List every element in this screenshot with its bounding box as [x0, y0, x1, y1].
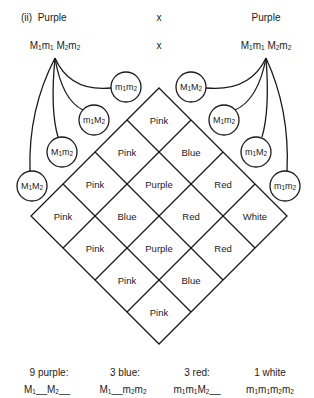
punnett-diagram-lines — [0, 0, 314, 398]
part-label: (ii) — [21, 12, 32, 23]
summary-ratio-purple: 9 purple: — [30, 367, 69, 378]
grid-cell: Pink — [86, 179, 104, 190]
grid-cell: Pink — [54, 211, 72, 222]
gamete-right-m1m2: m1m2 — [274, 181, 296, 191]
grid-cell: Blue — [117, 211, 136, 222]
grid-cell: Purple — [145, 179, 172, 190]
parent1-phenotype: Purple — [38, 12, 67, 23]
summary-ratio-red: 3 red: — [184, 367, 210, 378]
summary-genotype-white: m1m1m2m2 — [246, 384, 294, 395]
grid-cell: Pink — [150, 115, 168, 126]
summary-genotype-blue: M1__m2m2 — [99, 384, 146, 395]
summary-genotype-purple: M1__M2__ — [24, 384, 70, 395]
cross-label: (ii) Purple — [21, 12, 67, 23]
parent2-phenotype: Purple — [252, 12, 281, 23]
grid-cell: Pink — [118, 147, 136, 158]
parent2-genotype: M1m1 M2m2 — [241, 40, 292, 51]
gamete-left-m1M2: m1M2 — [83, 115, 105, 125]
cross-symbol-genotype: x — [157, 40, 162, 51]
grid-cell: Pink — [150, 307, 168, 318]
grid-cell: White — [243, 211, 267, 222]
gamete-right-m1M2: m1M2 — [245, 147, 267, 157]
grid-cell: Red — [214, 179, 231, 190]
grid-cell: Pink — [118, 275, 136, 286]
gamete-left-m1m2: m1m2 — [115, 82, 137, 92]
gamete-right-M1M2: M1M2 — [180, 82, 202, 92]
parent1-genotype: M1m1 M2m2 — [30, 40, 81, 51]
summary-ratio-white: 1 white — [254, 367, 286, 378]
grid-cell: Purple — [145, 243, 172, 254]
grid-cell: Pink — [86, 243, 104, 254]
summary-genotype-red: m1m1M2__ — [173, 384, 220, 395]
summary-ratio-blue: 3 blue: — [110, 367, 140, 378]
grid-cell: Blue — [181, 275, 200, 286]
grid-cell: Red — [182, 211, 199, 222]
grid-cell: Red — [214, 243, 231, 254]
gamete-left-M1m2: M1m2 — [51, 147, 73, 157]
gamete-left-M1M2: M1M2 — [21, 181, 43, 191]
grid-cell: Blue — [181, 147, 200, 158]
gamete-right-M1m2: M1m2 — [213, 115, 235, 125]
cross-symbol-top: x — [157, 12, 162, 23]
